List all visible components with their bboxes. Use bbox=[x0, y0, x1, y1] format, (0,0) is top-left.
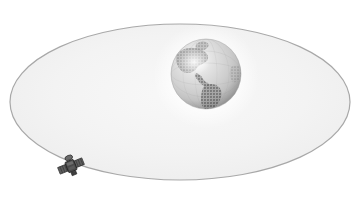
satellite-orbit-illustration: Satellite orbiting Earth bbox=[0, 0, 359, 199]
illustration-canvas bbox=[0, 0, 359, 199]
